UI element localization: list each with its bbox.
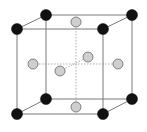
- face-atom-front: [55, 66, 65, 76]
- face-atom-right: [113, 59, 123, 69]
- corner-atom-back-top-left: [41, 10, 52, 21]
- corner-atom-front-top-left: [12, 24, 23, 35]
- corner-atom-front-bottom-right: [98, 109, 109, 120]
- corner-atom-back-bottom-right: [127, 94, 138, 105]
- fcc-unit-cell-diagram: [0, 0, 147, 132]
- face-atom-top: [71, 17, 81, 27]
- face-atom-back: [83, 52, 93, 62]
- corner-atom-back-bottom-left: [41, 94, 52, 105]
- face-atom-bottom: [71, 102, 81, 112]
- corner-atom-front-bottom-left: [12, 109, 23, 120]
- corner-atom-back-top-right: [127, 10, 138, 21]
- face-atom-left: [28, 59, 38, 69]
- corner-atom-front-top-right: [98, 24, 109, 35]
